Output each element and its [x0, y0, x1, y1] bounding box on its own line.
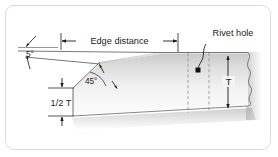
taper-angle-dimension: 5° [26, 36, 36, 69]
edge-distance-label: Edge distance [90, 36, 148, 46]
rivet-hole-marker [196, 68, 201, 73]
half-thickness-label: 1/2 T [51, 98, 72, 108]
taper-angle-leader-upper [27, 36, 37, 47]
taper-angle-label: 5° [26, 50, 34, 59]
figure-root: Edge distance 5° 45° 1/2 T [0, 0, 278, 157]
half-thickness-dimension: 1/2 T [48, 78, 74, 126]
rivet-hole-label: Rivet hole [213, 28, 254, 38]
chamfer-angle-label: 45° [85, 77, 97, 86]
plate-body [73, 52, 248, 116]
edge-distance-dimension: Edge distance [61, 33, 178, 52]
thickness-label: T [226, 77, 232, 87]
technical-diagram: Edge distance 5° 45° 1/2 T [0, 0, 278, 157]
